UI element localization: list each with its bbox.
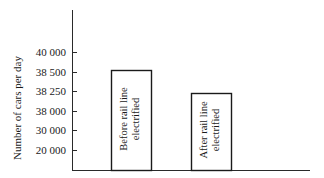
bar-chart: Number of cars per day 40 000 38 500 38 …: [0, 0, 324, 178]
bar-label-before-line1: Before rail line: [118, 74, 130, 164]
bar-label-after: After rail line electrified: [198, 85, 224, 175]
bar-label-before: Before rail line electrified: [118, 74, 144, 164]
y-tick-label-40000: 40 000: [18, 46, 66, 58]
bar-label-before-line2: electrified: [130, 74, 142, 164]
bar-label-after-line1: After rail line: [198, 85, 210, 175]
y-tick-label-38000: 38 000: [18, 105, 66, 117]
bar-label-after-line2: electrified: [210, 85, 222, 175]
y-tick-label-20000: 20 000: [18, 144, 66, 156]
y-tick-label-30000: 30 000: [18, 124, 66, 136]
y-tick-label-38250: 38 250: [18, 85, 66, 97]
y-tick-label-38500: 38 500: [18, 66, 66, 78]
